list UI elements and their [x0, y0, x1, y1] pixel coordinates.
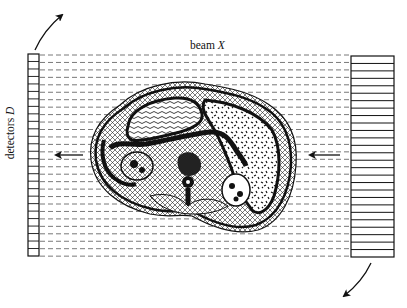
beam-symbol: X [218, 39, 225, 51]
detector-label: detectors D [4, 98, 16, 168]
source-array [351, 56, 394, 257]
beam-label: beam X [190, 39, 225, 51]
beam-label-text: beam [190, 39, 215, 51]
rotation-arrow-top-left [35, 15, 62, 50]
rotation-arrow-bottom-right [344, 263, 371, 296]
detector-array [28, 54, 39, 256]
detector-label-text: detectors [4, 118, 16, 160]
body-cross-section [91, 82, 297, 232]
detector-symbol: D [4, 107, 16, 115]
ct-scan-diagram: beam X detectors D [0, 0, 407, 308]
